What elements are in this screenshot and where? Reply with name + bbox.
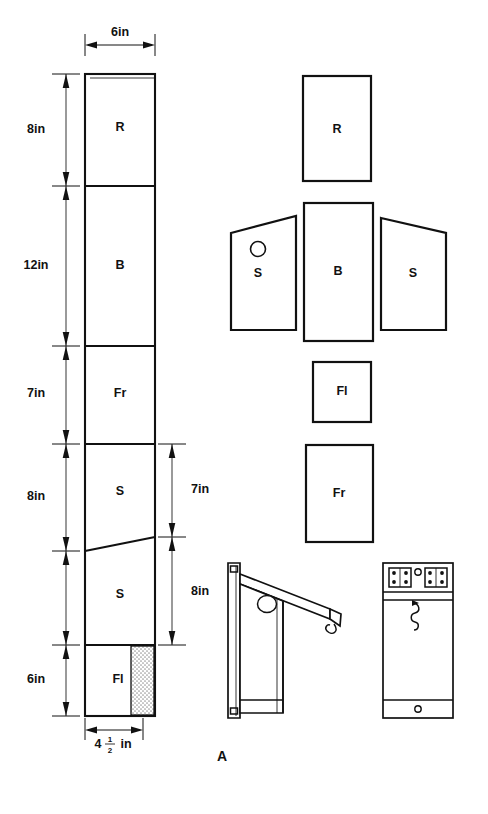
dimension-8in-R: 8in — [27, 74, 69, 186]
board-segment-label-S1: S — [116, 484, 124, 498]
board-segment-label-B: B — [115, 258, 124, 272]
figure-sheet: 6in R B Fr S — [0, 0, 488, 814]
figure-label: A — [217, 748, 227, 764]
dimension-label-net-width-denominator: 2 — [108, 746, 113, 755]
part-back: B — [304, 203, 373, 341]
assembled-front-view — [383, 563, 453, 718]
part-floor: Fl — [313, 362, 371, 422]
dimension-span-S2 — [63, 551, 70, 645]
parts-exploded-group: R S B S Fl — [231, 76, 446, 542]
screw-hole-top-icon — [415, 569, 421, 575]
dimension-7in-Fr: 7in — [27, 346, 69, 444]
board-segment-label-R: R — [115, 120, 124, 134]
part-label-side-left: S — [254, 266, 262, 280]
part-side-left: S — [231, 216, 296, 330]
assembled-side-view — [228, 563, 341, 718]
diagram-canvas: 6in R B Fr S — [0, 0, 488, 814]
dimension-board-net-width: 4 1 2 in — [85, 718, 143, 755]
dimension-chain-right: 7in 8in — [158, 444, 209, 645]
dimension-label-net-width-numerator: 1 — [108, 735, 113, 744]
board-segment-label-Fl: Fl — [112, 672, 123, 686]
part-side-right: S — [381, 218, 446, 330]
dimension-label-7in-Fr: 7in — [27, 386, 45, 400]
dimension-8in-right: 8in — [169, 537, 209, 645]
dimension-label-net-width-unit: in — [120, 737, 131, 751]
part-label-back: B — [333, 264, 342, 278]
dimension-chain-left: 8in 12in 7in — [23, 74, 80, 716]
dimension-label-8in-S: 8in — [27, 489, 45, 503]
part-label-side-right: S — [409, 266, 417, 280]
dimension-label-8in-R: 8in — [27, 122, 45, 136]
dimension-board-width-6in: 6in — [85, 25, 155, 56]
dimension-8in-S: 8in — [27, 444, 69, 551]
dimension-7in-right: 7in — [169, 444, 209, 537]
dimension-label-board-width: 6in — [111, 25, 129, 39]
part-roof: R — [303, 76, 371, 181]
dimension-label-8in-right: 8in — [191, 584, 209, 598]
dimension-6in-Fl: 6in — [27, 645, 69, 716]
entrance-hole-icon — [251, 242, 266, 257]
part-label-front: Fr — [333, 486, 346, 500]
board-cutting-layout: 6in R B Fr S — [23, 25, 209, 755]
board-segment-label-S2: S — [116, 587, 124, 601]
hook-icon — [326, 624, 336, 633]
dimension-label-7in-right: 7in — [191, 482, 209, 496]
dimension-label-net-width-whole: 4 — [95, 737, 102, 751]
part-front: Fr — [306, 445, 373, 542]
part-label-roof: R — [332, 122, 341, 136]
screw-hole-bottom-icon — [415, 706, 421, 712]
dimension-12in-B: 12in — [23, 186, 69, 346]
part-label-floor: Fl — [336, 384, 347, 398]
dimension-label-6in-Fl: 6in — [27, 672, 45, 686]
dimension-label-12in-B: 12in — [23, 258, 48, 272]
cut-line-S-S-angled — [85, 537, 155, 551]
waste-strip — [131, 646, 154, 715]
entrance-hole-side-icon — [258, 596, 277, 613]
board-segment-label-Fr: Fr — [114, 386, 127, 400]
